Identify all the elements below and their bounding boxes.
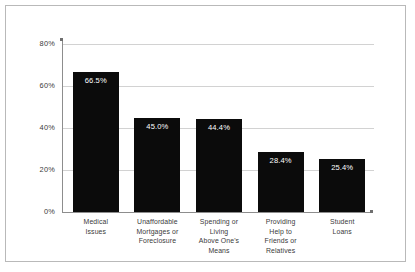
category-label-line: Means bbox=[188, 246, 250, 256]
category-label-line: Living bbox=[188, 227, 250, 237]
y-axis-tick: 40% bbox=[0, 123, 55, 133]
x-axis-category-label: MedicalIssues bbox=[65, 217, 127, 236]
category-label-line: Above One's bbox=[188, 236, 250, 246]
category-label-line: Mortgages or bbox=[127, 227, 189, 237]
plot-area: 0%20%40%60%80% 66.5%45.0%44.4%28.4%25.4%… bbox=[0, 0, 415, 272]
y-axis-tick: 60% bbox=[0, 81, 55, 91]
bar-value-label: 25.4% bbox=[319, 163, 365, 172]
bar-value-label: 28.4% bbox=[258, 156, 304, 165]
category-label-line: Medical bbox=[65, 217, 127, 227]
x-axis-category-label: Spending orLivingAbove One'sMeans bbox=[188, 217, 250, 255]
category-label-line: Student bbox=[311, 217, 373, 227]
bar[interactable]: 28.4% bbox=[258, 152, 304, 212]
y-axis-tick: 20% bbox=[0, 165, 55, 175]
bar[interactable]: 44.4% bbox=[196, 119, 242, 212]
bar-value-label: 66.5% bbox=[73, 76, 119, 85]
category-label-line: Friends or bbox=[250, 236, 312, 246]
category-label-line: Loans bbox=[311, 227, 373, 237]
category-label-line: Spending or bbox=[188, 217, 250, 227]
bar-value-label: 44.4% bbox=[196, 123, 242, 132]
x-axis-end-cap-icon bbox=[370, 210, 373, 213]
y-axis-tick-label: 20% bbox=[9, 165, 55, 174]
category-label-line: Help to bbox=[250, 227, 312, 237]
y-axis-line bbox=[62, 40, 63, 213]
category-label-line: Issues bbox=[65, 227, 127, 237]
x-axis-line bbox=[62, 212, 373, 213]
gridline bbox=[63, 44, 374, 45]
x-axis-category-label: UnaffordableMortgages orForeclosure bbox=[127, 217, 189, 246]
chart-figure: 0%20%40%60%80% 66.5%45.0%44.4%28.4%25.4%… bbox=[0, 0, 415, 272]
y-axis-tick: 0% bbox=[0, 207, 55, 217]
category-label-line: Providing bbox=[250, 217, 312, 227]
y-axis-tick-label: 80% bbox=[9, 39, 55, 48]
category-label-line: Unaffordable bbox=[127, 217, 189, 227]
bar[interactable]: 45.0% bbox=[134, 118, 180, 213]
y-axis-tick-label: 60% bbox=[9, 81, 55, 90]
category-label-line: Foreclosure bbox=[127, 236, 189, 246]
bar[interactable]: 66.5% bbox=[73, 72, 119, 212]
y-axis-tick: 80% bbox=[0, 39, 55, 49]
bar-value-label: 45.0% bbox=[134, 122, 180, 131]
y-axis-tick-label: 0% bbox=[9, 207, 55, 216]
y-axis-end-cap-icon bbox=[60, 38, 63, 41]
x-axis-category-label: StudentLoans bbox=[311, 217, 373, 236]
category-label-line: Relatives bbox=[250, 246, 312, 256]
y-axis-tick-label: 40% bbox=[9, 123, 55, 132]
x-axis-category-label: ProvidingHelp toFriends orRelatives bbox=[250, 217, 312, 255]
bar[interactable]: 25.4% bbox=[319, 159, 365, 212]
